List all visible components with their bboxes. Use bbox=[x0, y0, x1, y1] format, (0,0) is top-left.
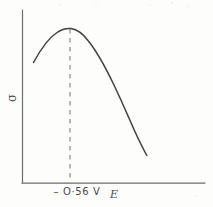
sigma-curve bbox=[34, 28, 147, 155]
sigma-curve-shadow bbox=[34, 28, 147, 155]
x-axis-tick-label: – O·56 V bbox=[44, 186, 110, 197]
y-axis-label: σ bbox=[6, 89, 24, 107]
figure-container: σ E – O·56 V bbox=[0, 0, 213, 207]
scan-noise bbox=[9, 2, 197, 202]
chart-plot-area bbox=[0, 0, 213, 207]
x-axis-label: E bbox=[110, 189, 118, 200]
